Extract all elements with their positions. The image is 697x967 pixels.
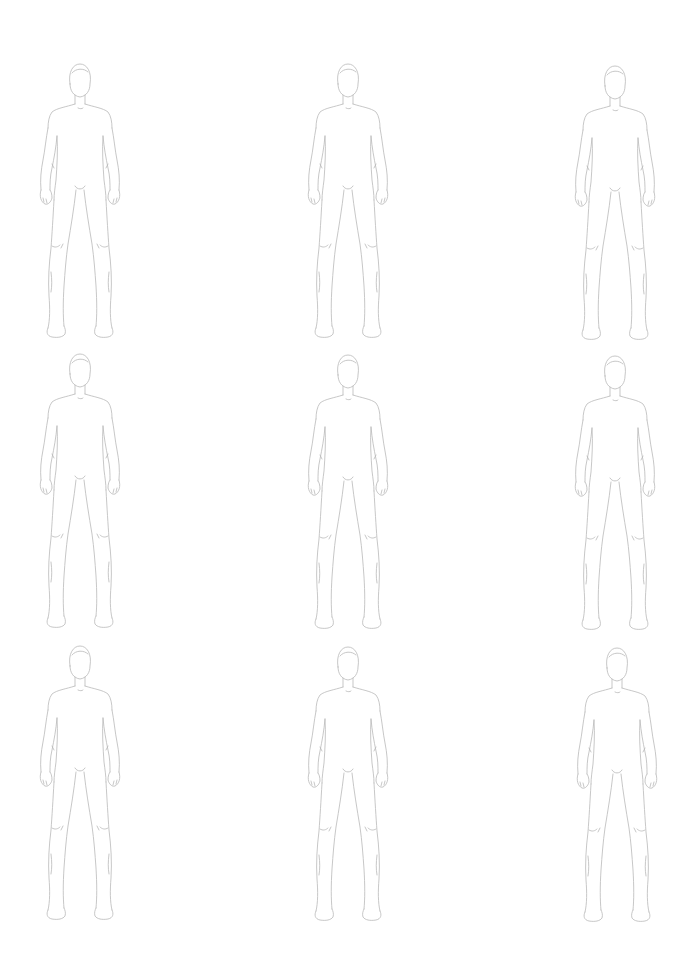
male-figure-outline-icon <box>298 349 398 629</box>
croquis-figure: Croquis 7 <box>30 640 130 920</box>
croquis-figure: Croquis 4 <box>30 348 130 628</box>
croquis-figure: Croquis 3 <box>565 60 665 340</box>
male-figure-outline-icon <box>565 60 665 340</box>
croquis-figure: Croquis 6 <box>565 350 665 630</box>
croquis-figure: Croquis 9 <box>567 642 667 922</box>
male-figure-outline-icon <box>30 348 130 628</box>
male-figure-outline-icon <box>30 640 130 920</box>
male-figure-outline-icon <box>30 58 130 338</box>
croquis-template-sheet: Croquis 1 Croquis 2 Croquis 3 Croquis 4 … <box>0 0 697 967</box>
male-figure-outline-icon <box>298 58 398 338</box>
croquis-figure: Croquis 5 <box>298 349 398 629</box>
croquis-figure: Croquis 8 <box>298 641 398 921</box>
male-figure-outline-icon <box>565 350 665 630</box>
croquis-figure: Croquis 2 <box>298 58 398 338</box>
male-figure-outline-icon <box>567 642 667 922</box>
male-figure-outline-icon <box>298 641 398 921</box>
croquis-figure: Croquis 1 <box>30 58 130 338</box>
